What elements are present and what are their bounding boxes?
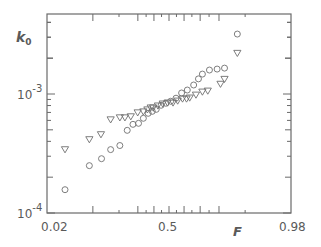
circle-marker bbox=[234, 31, 240, 37]
circle-marker bbox=[136, 120, 142, 126]
circle-marker bbox=[206, 67, 212, 73]
circle-marker bbox=[86, 163, 92, 169]
y-axis-ticks bbox=[47, 22, 291, 213]
circle-marker bbox=[140, 115, 146, 121]
circle-marker bbox=[184, 87, 190, 93]
circle-marker bbox=[222, 65, 228, 71]
circle-marker bbox=[179, 90, 185, 96]
circle-marker bbox=[117, 143, 123, 149]
y-axis-label-sub: 0 bbox=[25, 37, 31, 47]
circle-marker bbox=[130, 121, 136, 127]
triangle-down-marker bbox=[97, 132, 104, 138]
x-axis-label: F bbox=[233, 224, 242, 239]
circle-marker bbox=[108, 147, 114, 153]
y-tick-label-1e-3: 10-3 bbox=[17, 83, 42, 102]
triangle-down-marker bbox=[234, 50, 241, 56]
y-axis-label: k0 bbox=[16, 29, 32, 47]
y-tick-exponent: -3 bbox=[32, 83, 42, 94]
circle-marker bbox=[99, 156, 105, 162]
triangle-down-marker bbox=[107, 117, 114, 123]
scatter-chart: k0 10-3 10-4 0.02 0.5 0.98 F bbox=[0, 0, 321, 247]
circle-marker bbox=[124, 127, 130, 133]
circle-marker bbox=[62, 187, 68, 193]
x-tick-label-0.5: 0.5 bbox=[158, 220, 177, 234]
triangle-down-marker bbox=[217, 81, 224, 87]
plot-frame bbox=[47, 14, 291, 213]
triangle-down-marker bbox=[86, 137, 93, 143]
x-tick-label-0.98: 0.98 bbox=[279, 220, 306, 234]
x-axis-ticks bbox=[93, 14, 245, 213]
y-tick-base: 10 bbox=[17, 88, 32, 102]
triangle-down-marker bbox=[134, 110, 141, 116]
y-tick-base: 10 bbox=[17, 207, 32, 221]
y-tick-exponent: -4 bbox=[32, 202, 42, 213]
x-tick-label-0.02: 0.02 bbox=[41, 220, 68, 234]
circle-marker bbox=[191, 82, 197, 88]
data-markers bbox=[61, 31, 241, 193]
circle-marker bbox=[214, 66, 220, 72]
triangle-down-marker bbox=[61, 147, 68, 153]
y-tick-label-1e-4: 10-4 bbox=[17, 202, 42, 221]
circle-marker bbox=[199, 71, 205, 77]
